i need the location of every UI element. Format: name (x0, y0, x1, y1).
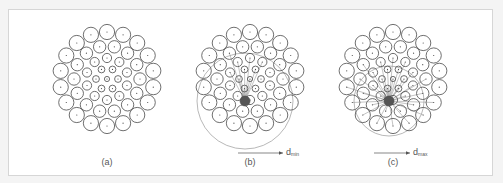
dmax-label: dmax (413, 147, 427, 157)
panel-label-b: (b) (245, 157, 256, 167)
dmin-label: dmin (286, 147, 299, 157)
focus-fiber (384, 96, 394, 106)
bundle-c (339, 24, 447, 136)
bundle-b (196, 24, 304, 149)
focus-fiber (240, 96, 250, 106)
panel-label-a: (a) (102, 157, 113, 167)
bundle-a (53, 24, 161, 133)
panel-label-c: (c) (388, 157, 399, 167)
figure-canvas (0, 0, 503, 183)
